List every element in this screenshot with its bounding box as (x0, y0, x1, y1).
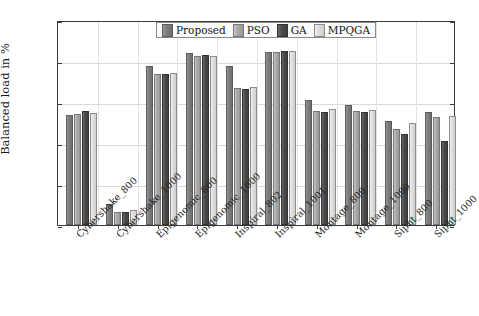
bar (250, 87, 257, 225)
legend-item: PSO (233, 24, 270, 37)
grid-line (98, 22, 99, 225)
bar (313, 111, 320, 225)
bar (82, 111, 89, 225)
grid-line (217, 22, 218, 225)
grid-line (297, 22, 298, 225)
bar (441, 141, 448, 225)
y-tick-mark (58, 63, 62, 64)
legend-swatch-icon (277, 24, 288, 37)
bar (281, 51, 288, 225)
grid-line (138, 22, 139, 225)
bar (393, 129, 400, 225)
legend-swatch-icon (314, 24, 325, 37)
bar (329, 109, 336, 225)
bar (66, 115, 73, 225)
y-tick-mark (58, 22, 62, 23)
legend-label: GA (291, 24, 307, 36)
bar (289, 51, 296, 225)
chart-legend: ProposedPSOGAMPQGA (156, 22, 376, 38)
y-tick-mark (58, 145, 62, 146)
bar (433, 117, 440, 225)
legend-item: Proposed (162, 24, 226, 37)
grid-line (376, 22, 377, 225)
bar (242, 89, 249, 225)
bar (369, 110, 376, 225)
legend-swatch-icon (162, 24, 173, 37)
grid-line (416, 22, 417, 225)
grid-line (257, 22, 258, 225)
legend-label: PSO (247, 24, 270, 36)
bar (202, 55, 209, 225)
bar-group (425, 20, 456, 225)
y-tick-mark (58, 186, 62, 187)
y-tick-mark (58, 227, 62, 228)
legend-swatch-icon (233, 24, 244, 37)
bar (321, 112, 328, 225)
legend-item: MPQGA (314, 24, 370, 37)
bar (114, 212, 121, 225)
bar (353, 111, 360, 225)
bar (162, 74, 169, 225)
bar (74, 114, 81, 225)
grid-line (177, 22, 178, 225)
y-tick-mark (58, 104, 62, 105)
bar (170, 73, 177, 225)
bar (210, 56, 217, 225)
bar-group (66, 20, 97, 225)
y-axis-title: Balanced load in % (0, 0, 12, 264)
legend-label: MPQGA (328, 24, 370, 36)
legend-label: Proposed (176, 24, 226, 36)
bar (361, 112, 368, 225)
grid-line (337, 22, 338, 225)
legend-item: GA (277, 24, 307, 37)
